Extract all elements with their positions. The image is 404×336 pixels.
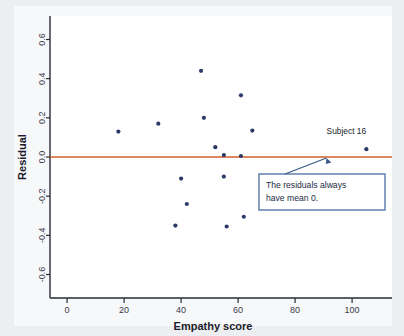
y-axis-title: Residual	[16, 134, 28, 180]
callout-pointer-line	[285, 158, 326, 174]
y-tick-label: 0.6	[37, 33, 47, 46]
data-point	[242, 215, 246, 219]
residual-scatter-plot: 0.60.40.20.0-0.2-0.4-0.6 020406080100 Em…	[0, 0, 404, 336]
x-tick-label: 20	[119, 305, 129, 315]
subject-16-label: Subject 16	[327, 126, 367, 136]
y-tick-label: 0.2	[37, 112, 47, 125]
x-axis-title: Empathy score	[174, 320, 253, 332]
x-tick-label: 100	[345, 305, 360, 315]
data-point	[239, 154, 243, 158]
data-point	[185, 202, 189, 206]
data-point	[239, 93, 243, 97]
annotations: Subject 16The residuals alwayshave mean …	[259, 126, 385, 211]
data-point	[199, 69, 203, 73]
y-tick-label: -0.6	[37, 267, 47, 283]
y-tick-label: 0.0	[37, 151, 47, 164]
y-tick-label: 0.4	[37, 72, 47, 85]
data-point	[213, 145, 217, 149]
y-axis-ticks: 0.60.40.20.0-0.2-0.4-0.6	[37, 33, 50, 282]
data-point	[202, 116, 206, 120]
callout-arrow-head	[326, 158, 332, 164]
x-tick-label: 60	[233, 305, 243, 315]
data-point	[116, 129, 120, 133]
callout-text-line-1: The residuals always	[266, 180, 346, 190]
axis-titles: Empathy scoreResidual	[16, 134, 252, 332]
callout-text-line-2: have mean 0.	[266, 193, 318, 203]
data-point	[222, 174, 226, 178]
y-tick-label: -0.2	[37, 188, 47, 204]
data-point	[179, 176, 183, 180]
data-point	[225, 224, 229, 228]
data-point	[173, 223, 177, 227]
x-tick-label: 0	[65, 305, 70, 315]
x-tick-label: 80	[290, 305, 300, 315]
data-point	[156, 122, 160, 126]
x-axis-ticks: 020406080100	[65, 298, 360, 315]
figure-container: 0.60.40.20.0-0.2-0.4-0.6 020406080100 Em…	[0, 0, 404, 336]
x-tick-label: 40	[176, 305, 186, 315]
data-point	[364, 147, 368, 151]
data-point	[222, 153, 226, 157]
data-point	[250, 128, 254, 132]
y-tick-label: -0.4	[37, 228, 47, 244]
